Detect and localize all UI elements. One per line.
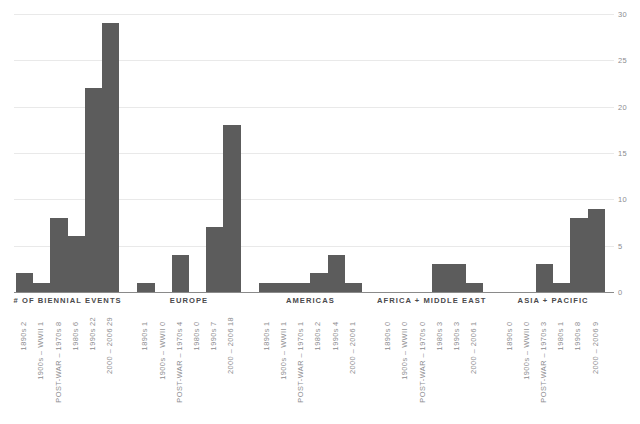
tick-value: 1 [469,310,480,326]
tick-value: 9 [591,310,602,326]
tick-column: 71990s [209,310,220,420]
tick-column: 11890s [140,310,151,420]
tick-value: 0 [192,310,203,326]
tick-value: 3 [452,310,463,326]
tick-name: 1900s – WWII [522,328,533,380]
plot-area [14,14,614,292]
tick-column: 11980s [556,310,567,420]
bar [345,283,362,292]
tick-name: 1890s [383,328,394,350]
tick-value: 7 [209,310,220,326]
tick-name: POST-WAR – 1970s [539,328,550,403]
tick-value: 3 [435,310,446,326]
tick-column: 4POST-WAR – 1970s [175,310,186,420]
tick-column: 41990s [331,310,342,420]
tick-name: POST-WAR – 1970s [175,328,186,403]
tick-name: 1980s [435,328,446,350]
bar [293,283,310,292]
tick-column: 61980s [71,310,82,420]
tick-name: 1890s [19,328,30,350]
y-tick-label-25: 25 [618,56,627,65]
tick-column: 292000 – 2006 [105,310,116,420]
tick-name: 1900s – WWII [279,328,290,380]
tick-name: 2000 – 2006 [348,328,359,374]
tick-value: 1 [348,310,359,326]
tick-column: 1POST-WAR – 1970s [296,310,307,420]
axis-baseline [14,292,614,293]
tick-name: 1980s [192,328,203,350]
tick-value: 4 [331,310,342,326]
y-tick-label-30: 30 [618,10,627,19]
y-tick-label-20: 20 [618,102,627,111]
tick-value: 8 [573,310,584,326]
tick-column: 01890s [383,310,394,420]
tick-value: 2 [313,310,324,326]
tick-name: 1990s [331,328,342,350]
tick-value: 1 [36,310,47,326]
bar [553,283,570,292]
bar [223,125,240,292]
tick-name: 1890s [262,328,273,350]
bar [16,273,33,292]
tick-column: 01900s – WWII [522,310,533,420]
bar-chart: 051015202530 # OF BIENNIAL EVENTSEUROPEA… [0,0,640,424]
tick-column: 01890s [505,310,516,420]
tick-value: 18 [226,310,237,326]
bar [449,264,466,292]
tick-name: 1900s – WWII [400,328,411,380]
tick-column: 92000 – 2006 [591,310,602,420]
tick-column: 01980s [192,310,203,420]
bar [570,218,587,292]
tick-value: 0 [383,310,394,326]
tick-name: 1890s [140,328,151,350]
tick-value: 1 [296,310,307,326]
tick-value: 4 [175,310,186,326]
tick-column: 11890s [262,310,273,420]
group-title-4: ASIA + PACIFIC [518,296,589,305]
tick-value: 0 [158,310,169,326]
bar [85,88,102,292]
y-tick-label-5: 5 [618,241,623,250]
tick-name: 1900s – WWII [158,328,169,380]
tick-column: 221990s [88,310,99,420]
bar [432,264,449,292]
tick-name: POST-WAR – 1970s [418,328,429,403]
tick-value: 1 [262,310,273,326]
tick-name: 1990s [209,328,220,350]
tick-value: 2 [19,310,30,326]
bar [310,273,327,292]
tick-name: POST-WAR – 1970s [54,328,65,403]
tick-value: 6 [71,310,82,326]
tick-name: 1990s [452,328,463,350]
tick-value: 0 [505,310,516,326]
tick-name: POST-WAR – 1970s [296,328,307,403]
tick-value: 29 [105,310,116,326]
tick-value: 22 [88,310,99,326]
tick-column: 8POST-WAR – 1970s [54,310,65,420]
bar [328,255,345,292]
tick-name: 2000 – 2006 [469,328,480,374]
bar [466,283,483,292]
group-title-1: EUROPE [170,296,208,305]
tick-column: 182000 – 2006 [226,310,237,420]
bar [206,227,223,292]
bar [33,283,50,292]
bars-layer [14,14,614,292]
tick-value: 1 [140,310,151,326]
tick-name: 2000 – 2006 [591,328,602,374]
tick-column: 31990s [452,310,463,420]
tick-value: 3 [539,310,550,326]
bar [536,264,553,292]
tick-column: 11900s – WWII [36,310,47,420]
tick-column: 21890s [19,310,30,420]
tick-column: 21980s [313,310,324,420]
tick-column: 31980s [435,310,446,420]
x-axis-tick-labels: 21890s11900s – WWII8POST-WAR – 1970s6198… [14,310,614,420]
tick-column: 81990s [573,310,584,420]
tick-column: 12000 – 2006 [469,310,480,420]
y-axis-labels: 051015202530 [618,14,640,292]
tick-value: 0 [522,310,533,326]
tick-column: 3POST-WAR – 1970s [539,310,550,420]
tick-column: 01900s – WWII [400,310,411,420]
tick-value: 1 [556,310,567,326]
